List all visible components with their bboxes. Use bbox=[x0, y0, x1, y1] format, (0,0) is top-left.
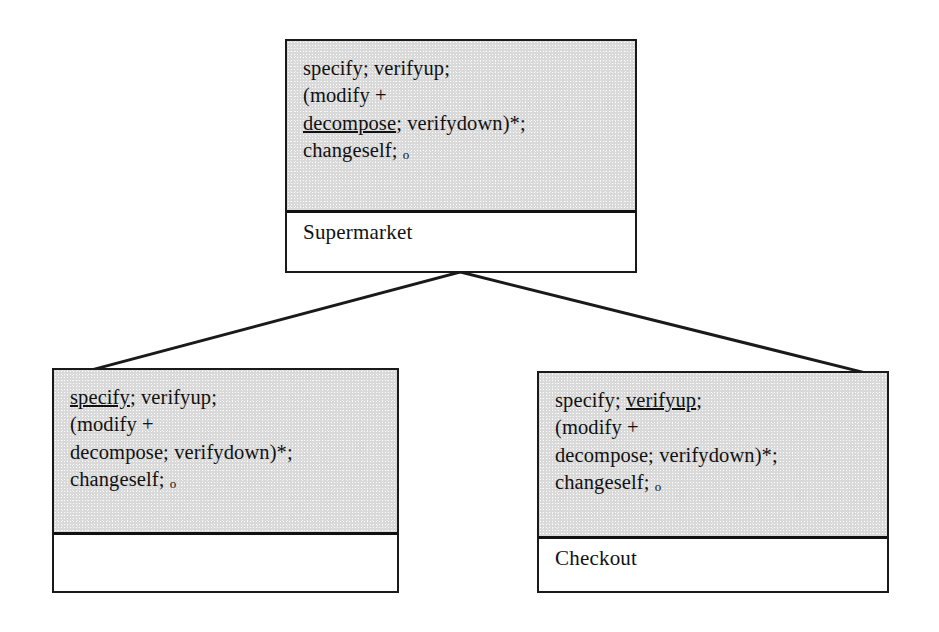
spec-token-highlighted: specify bbox=[70, 386, 130, 408]
spec-line: decompose; verifydown)*; bbox=[303, 110, 635, 137]
class-node-name: Checkout bbox=[539, 539, 887, 591]
spec-line: (modify + bbox=[70, 411, 397, 438]
class-node-spec-body: specify; verifyup; (modify + decompose; … bbox=[287, 41, 635, 213]
spec-line: decompose; verifydown)*; bbox=[555, 442, 887, 469]
spec-line: decompose; verifydown)*; bbox=[70, 439, 397, 466]
class-node-left-child[interactable]: specify; verifyup; (modify + decompose; … bbox=[52, 368, 399, 593]
spec-token-highlighted: decompose bbox=[303, 112, 396, 134]
spec-token: (modify + bbox=[555, 416, 639, 438]
spec-line: specify; verifyup; bbox=[555, 387, 887, 414]
spec-token: decompose; verifydown)*; bbox=[555, 444, 778, 466]
spec-line: specify; verifyup; bbox=[303, 55, 635, 82]
spec-token-highlighted: verifyup bbox=[626, 389, 696, 411]
spec-line: changeself; o bbox=[303, 137, 635, 164]
spec-token: ; verifyup; bbox=[130, 386, 217, 408]
class-node-supermarket[interactable]: specify; verifyup; (modify + decompose; … bbox=[285, 39, 637, 273]
diagram-canvas: specify; verifyup; (modify + decompose; … bbox=[0, 0, 939, 632]
spec-line: changeself; o bbox=[70, 466, 397, 493]
spec-line: (modify + bbox=[303, 82, 635, 109]
spec-token: changeself; bbox=[303, 139, 403, 161]
spec-token: ; verifydown)*; bbox=[396, 112, 526, 134]
connector-root-to-right bbox=[460, 272, 862, 372]
spec-token: (modify + bbox=[70, 413, 154, 435]
spec-token: specify; bbox=[555, 389, 626, 411]
class-node-checkout[interactable]: specify; verifyup; (modify + decompose; … bbox=[537, 371, 889, 593]
class-node-spec-body: specify; verifyup; (modify + decompose; … bbox=[54, 370, 397, 535]
spec-line: specify; verifyup; bbox=[70, 384, 397, 411]
spec-token: ; bbox=[696, 389, 702, 411]
spec-token: specify; verifyup; bbox=[303, 57, 450, 79]
spec-line: (modify + bbox=[555, 414, 887, 441]
connector-root-to-left bbox=[95, 272, 460, 369]
spec-line: changeself; o bbox=[555, 469, 887, 496]
class-node-spec-body: specify; verifyup; (modify + decompose; … bbox=[539, 373, 887, 539]
spec-token: (modify + bbox=[303, 84, 387, 106]
class-node-name: Supermarket bbox=[287, 213, 635, 271]
spec-token: o bbox=[170, 476, 177, 491]
spec-token: o bbox=[655, 479, 662, 494]
spec-token: changeself; bbox=[555, 471, 655, 493]
spec-token: o bbox=[403, 147, 410, 162]
class-node-name bbox=[54, 535, 397, 591]
spec-token: changeself; bbox=[70, 468, 170, 490]
spec-token: decompose; verifydown)*; bbox=[70, 441, 293, 463]
